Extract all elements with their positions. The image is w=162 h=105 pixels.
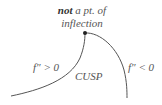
cusp-label: CUSP (75, 70, 103, 82)
left-concavity-label: f″ > 0 (33, 61, 60, 73)
cusp-point (83, 31, 87, 35)
right-curve (85, 33, 127, 98)
title-line-1: not a pt. of (58, 4, 108, 16)
title-line-2: inflection (61, 17, 103, 29)
right-concavity-label: f″ < 0 (128, 61, 155, 73)
cusp-diagram: not a pt. of inflection f″ > 0 CUSP f″ <… (0, 0, 162, 105)
